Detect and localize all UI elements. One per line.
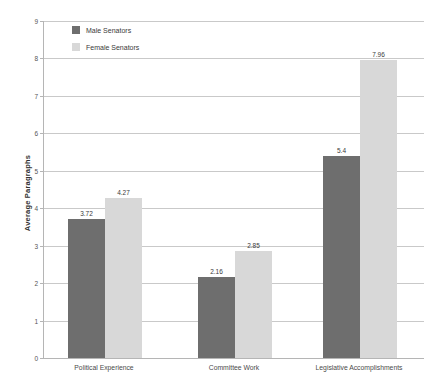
- y-axis-tick-label: 8: [34, 55, 38, 62]
- y-axis-tick: [40, 96, 44, 97]
- bar-slot: 4.27: [105, 21, 142, 358]
- y-axis-tick: [40, 133, 44, 134]
- y-axis-tick: [40, 358, 44, 359]
- y-axis-tick-label: 4: [34, 205, 38, 212]
- bar[interactable]: [360, 60, 397, 358]
- y-axis-tick: [40, 283, 44, 284]
- y-axis-tick-label: 7: [34, 92, 38, 99]
- y-axis-tick-label: 2: [34, 280, 38, 287]
- bar[interactable]: [68, 219, 105, 358]
- bar-slot: 5.4: [323, 21, 360, 358]
- y-axis-tick: [40, 246, 44, 247]
- y-axis-tick: [40, 21, 44, 22]
- x-axis-category-label: Legislative Accomplishments: [316, 364, 403, 371]
- bar[interactable]: [198, 277, 235, 358]
- y-axis-tick-label: 6: [34, 130, 38, 137]
- bar[interactable]: [323, 156, 360, 358]
- x-axis-category-label: Committee Work: [209, 364, 259, 371]
- bar-value-label: 4.27: [117, 189, 130, 196]
- bar-slot: 2.85: [235, 21, 272, 358]
- y-axis-tick: [40, 171, 44, 172]
- legend-item[interactable]: Female Senators: [72, 43, 139, 51]
- bar-value-label: 3.72: [80, 210, 93, 217]
- legend-label: Female Senators: [86, 44, 139, 51]
- bar-value-label: 2.16: [210, 268, 223, 275]
- legend-swatch-icon: [72, 26, 80, 34]
- legend-swatch-icon: [72, 43, 80, 51]
- bar-value-label: 7.96: [372, 51, 385, 58]
- bar-value-label: 2.85: [247, 242, 260, 249]
- bar-chart: Average Paragraphs 0123456789 3.724.272.…: [0, 0, 439, 386]
- y-axis-tick-label: 0: [34, 355, 38, 362]
- y-axis-tick: [40, 58, 44, 59]
- bar-slot: 3.72: [68, 21, 105, 358]
- bar[interactable]: [235, 251, 272, 358]
- y-axis-tick: [40, 208, 44, 209]
- bar-value-label: 5.4: [337, 147, 346, 154]
- chart-legend: Male SenatorsFemale Senators: [72, 26, 139, 51]
- y-axis-tick-label: 5: [34, 167, 38, 174]
- legend-item[interactable]: Male Senators: [72, 26, 139, 34]
- x-axis-category-label: Political Experience: [74, 364, 133, 371]
- bar-slot: 2.16: [198, 21, 235, 358]
- plot-area: 0123456789 3.724.272.162.855.47.96: [43, 21, 424, 359]
- y-axis-tick-label: 1: [34, 317, 38, 324]
- bar-group: 5.47.96: [323, 21, 397, 358]
- bar-group: 3.724.27: [68, 21, 142, 358]
- y-axis-tick-label: 9: [34, 18, 38, 25]
- bar[interactable]: [105, 198, 142, 358]
- bar-group: 2.162.85: [198, 21, 272, 358]
- y-axis-tick: [40, 321, 44, 322]
- legend-label: Male Senators: [86, 27, 131, 34]
- y-axis-tick-label: 3: [34, 242, 38, 249]
- bar-slot: 7.96: [360, 21, 397, 358]
